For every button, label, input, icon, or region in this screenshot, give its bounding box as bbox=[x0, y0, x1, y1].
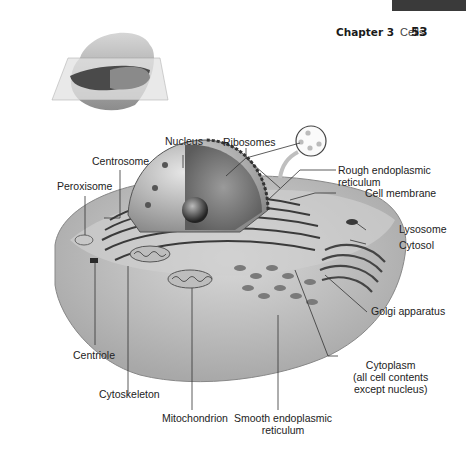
label-centriole: Centriole bbox=[73, 349, 115, 361]
label-cytoplasm-line1: Cytoplasm bbox=[353, 359, 428, 371]
label-rough-er-line1: Rough endoplasmic bbox=[338, 164, 431, 176]
label-cytoplasm: Cytoplasm (all cell contents except nucl… bbox=[353, 359, 428, 395]
label-centrosome: Centrosome bbox=[92, 155, 149, 167]
label-smooth-er-line2: reticulum bbox=[234, 424, 332, 436]
label-cytoplasm-line2: (all cell contents bbox=[353, 371, 428, 383]
label-smooth-er-line1: Smooth endoplasmic bbox=[234, 412, 332, 424]
label-cytoplasm-line3: except nucleus) bbox=[353, 383, 428, 395]
label-smooth-er: Smooth endoplasmic reticulum bbox=[234, 412, 332, 436]
label-golgi-apparatus: Golgi apparatus bbox=[371, 305, 445, 317]
thumbnail-cell bbox=[52, 33, 168, 110]
label-ribosomes: Ribosomes bbox=[223, 136, 276, 148]
label-mitochondrion: Mitochondrion bbox=[162, 412, 228, 424]
label-cell-membrane: Cell membrane bbox=[365, 187, 436, 199]
label-rough-er: Rough endoplasmic reticulum bbox=[338, 164, 431, 188]
label-peroxisome: Peroxisome bbox=[57, 180, 112, 192]
nucleus bbox=[128, 140, 268, 232]
label-cytoskeleton: Cytoskeleton bbox=[99, 388, 160, 400]
label-lysosome: Lysosome bbox=[399, 223, 446, 235]
label-nucleus: Nucleus bbox=[165, 135, 203, 147]
label-cytosol: Cytosol bbox=[399, 239, 434, 251]
